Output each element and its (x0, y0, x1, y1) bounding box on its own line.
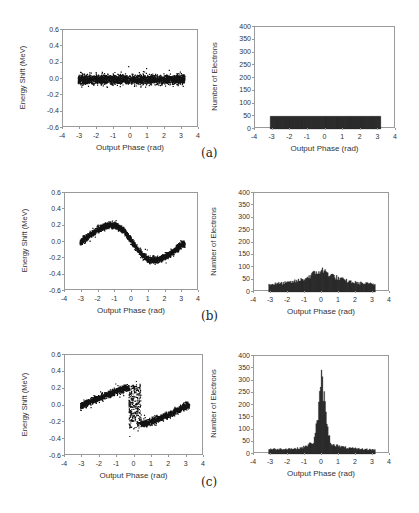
plot-area (64, 354, 203, 455)
y-tick-mark (60, 45, 62, 46)
x-tick-label: 4 (388, 133, 402, 140)
x-tick-label: 0 (124, 295, 138, 302)
y-tick-label: 400 (226, 189, 250, 196)
subfigure-caption: (c) (201, 475, 217, 489)
x-tick-label: 1 (140, 132, 154, 139)
x-tick-label: -2 (89, 132, 103, 139)
y-tick-mark (62, 208, 64, 209)
x-tick-label: -4 (246, 458, 260, 465)
x-tick-label: 1 (144, 460, 158, 467)
x-tick-label: -3 (74, 460, 88, 467)
x-tick-label: 2 (158, 295, 172, 302)
x-tick-mark (168, 455, 169, 457)
x-axis-label: Output Phase (rad) (253, 307, 389, 316)
y-axis-label: Number of Electrons (210, 26, 219, 128)
plot-canvas (63, 30, 199, 128)
y-tick-mark (252, 39, 254, 40)
x-tick-mark (64, 455, 65, 457)
x-tick-mark (307, 128, 308, 130)
y-tick-label: -0.6 (37, 287, 61, 294)
x-tick-mark (287, 291, 288, 293)
subfigure-caption: (b) (201, 309, 218, 323)
y-tick-mark (62, 274, 64, 275)
y-tick-mark (251, 279, 253, 280)
x-tick-mark (62, 127, 63, 129)
x-tick-label: -1 (107, 295, 121, 302)
plot-area (253, 192, 389, 291)
y-tick-label: -0.6 (35, 124, 59, 131)
x-tick-mark (270, 453, 271, 455)
x-tick-label: 2 (161, 460, 175, 467)
x-tick-mark (134, 455, 135, 457)
x-axis-label: Output Phase (rad) (254, 144, 395, 153)
y-axis-label: Energy Shift (MeV) (18, 29, 27, 127)
y-tick-mark (252, 103, 254, 104)
y-tick-label: 250 (226, 226, 250, 233)
y-tick-label: 350 (227, 35, 251, 42)
x-tick-mark (272, 128, 273, 130)
scatter-points (79, 220, 185, 265)
y-tick-label: 0 (227, 125, 251, 132)
plot-area (254, 26, 395, 128)
y-tick-label: -0.2 (37, 254, 61, 261)
x-tick-mark (198, 290, 199, 292)
x-tick-label: -4 (57, 460, 71, 467)
y-tick-mark (252, 115, 254, 116)
scatter-points (80, 381, 190, 437)
x-tick-mark (355, 453, 356, 455)
y-tick-mark (62, 388, 64, 389)
x-tick-label: 0 (314, 458, 328, 465)
x-tick-mark (342, 128, 343, 130)
x-tick-label: -3 (265, 133, 279, 140)
x-tick-mark (287, 453, 288, 455)
x-tick-label: -3 (74, 295, 88, 302)
y-tick-mark (251, 217, 253, 218)
x-tick-mark (147, 127, 148, 129)
y-tick-label: 350 (226, 201, 250, 208)
y-tick-mark (251, 416, 253, 417)
y-tick-mark (62, 421, 64, 422)
x-tick-mark (148, 290, 149, 292)
x-tick-mark (325, 128, 326, 130)
plot-canvas (254, 356, 390, 454)
y-tick-label: 400 (226, 352, 250, 359)
x-tick-mark (304, 291, 305, 293)
x-axis-label: Output Phase (rad) (253, 469, 389, 478)
x-tick-label: 2 (348, 296, 362, 303)
y-tick-label: 0.2 (37, 221, 61, 228)
y-tick-label: -0.2 (37, 418, 61, 425)
y-tick-label: -0.2 (35, 91, 59, 98)
y-tick-mark (62, 257, 64, 258)
y-tick-mark (252, 77, 254, 78)
x-tick-mark (270, 291, 271, 293)
x-tick-label: 3 (365, 458, 379, 465)
y-tick-label: 0.4 (37, 205, 61, 212)
x-tick-label: -3 (263, 458, 277, 465)
x-tick-mark (165, 290, 166, 292)
x-tick-mark (253, 291, 254, 293)
y-axis-label: Number of Electrons (209, 192, 218, 291)
x-tick-label: 0 (127, 460, 141, 467)
y-tick-label: 400 (227, 23, 251, 30)
x-tick-label: 3 (174, 295, 188, 302)
histogram-bars (269, 370, 376, 454)
x-tick-label: 3 (370, 133, 384, 140)
y-tick-mark (62, 371, 64, 372)
x-tick-mark (254, 128, 255, 130)
x-tick-mark (372, 291, 373, 293)
x-tick-mark (389, 291, 390, 293)
x-axis-label: Output Phase (rad) (62, 143, 198, 152)
y-tick-mark (60, 62, 62, 63)
x-tick-mark (131, 290, 132, 292)
x-tick-label: -2 (91, 295, 105, 302)
x-tick-mark (151, 455, 152, 457)
y-tick-label: 100 (226, 425, 250, 432)
x-tick-mark (81, 455, 82, 457)
y-axis-label: Energy Shift (MeV) (20, 354, 29, 455)
y-tick-label: 0.4 (37, 367, 61, 374)
y-tick-label: 0.6 (35, 26, 59, 33)
y-tick-label: -0.4 (37, 435, 61, 442)
x-tick-mark (355, 291, 356, 293)
plot-canvas (65, 193, 199, 291)
y-tick-mark (251, 229, 253, 230)
